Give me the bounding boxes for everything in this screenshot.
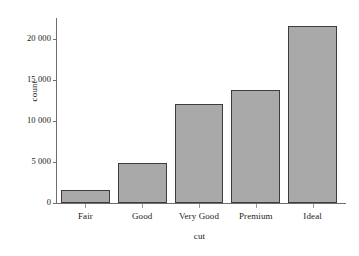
bar: [61, 190, 110, 203]
y-axis-tick: 20 000: [0, 39, 57, 40]
y-tick-mark: [53, 80, 57, 81]
y-tick-label: 5 000: [31, 155, 51, 168]
y-tick-mark: [53, 162, 57, 163]
y-axis-line: [56, 18, 57, 204]
y-axis-tick: 5 000: [0, 162, 57, 163]
x-tick-mark: [142, 204, 143, 208]
y-axis-tick: 0: [0, 203, 57, 204]
y-axis-title: count: [27, 61, 41, 121]
x-tick-mark: [256, 204, 257, 208]
y-tick-label: 15 000: [27, 73, 51, 86]
x-tick-label: Ideal: [273, 210, 353, 222]
bar: [288, 26, 337, 203]
y-tick-mark: [53, 39, 57, 40]
x-tick-mark: [199, 204, 200, 208]
bar: [175, 104, 224, 203]
bar: [118, 163, 167, 203]
y-tick-label: 20 000: [27, 32, 51, 45]
y-tick-label: 10 000: [27, 114, 51, 127]
bar: [231, 90, 280, 203]
y-tick-mark: [53, 203, 57, 204]
x-axis-title: cut: [57, 231, 342, 241]
y-axis-tick: 15 000: [0, 80, 57, 81]
y-tick-label: 0: [47, 196, 51, 209]
x-tick-mark: [85, 204, 86, 208]
x-axis-line: [56, 203, 346, 204]
y-axis-tick: 10 000: [0, 121, 57, 122]
y-tick-mark: [53, 121, 57, 122]
bar-chart-figure: count 05 00010 00015 00020 000 FairGoodV…: [0, 0, 359, 256]
x-tick-mark: [313, 204, 314, 208]
